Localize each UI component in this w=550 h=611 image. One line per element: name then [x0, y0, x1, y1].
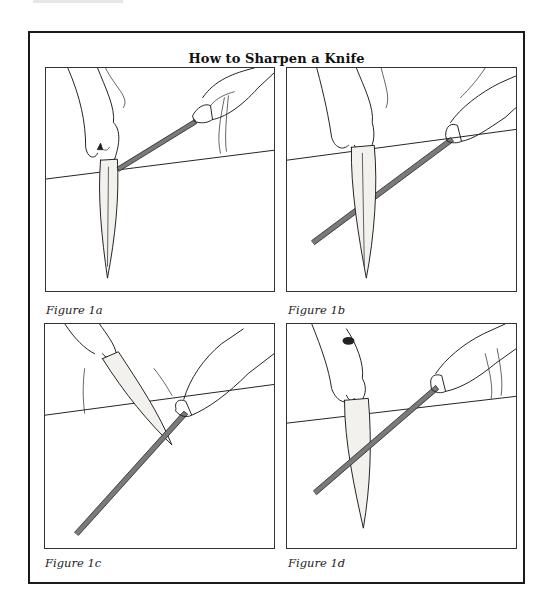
- page-title: How to Sharpen a Knife: [30, 51, 523, 66]
- figure-1b-panel: [286, 67, 517, 292]
- knife-steel-illustration-1b: [287, 68, 516, 291]
- top-edge-strip: [33, 0, 123, 3]
- figure-frame: How to Sharpen a Knife Figure 1: [28, 31, 525, 584]
- figure-1d-caption: Figure 1d: [288, 556, 345, 570]
- figure-1a-panel: [45, 67, 275, 292]
- figure-1c-caption: Figure 1c: [45, 556, 101, 570]
- figure-1c-panel: [44, 323, 275, 549]
- figure-1b-caption: Figure 1b: [288, 303, 345, 317]
- knife-steel-illustration-1a: [46, 68, 274, 291]
- knife-steel-illustration-1d: [287, 324, 516, 548]
- figure-1a-caption: Figure 1a: [46, 303, 103, 317]
- knife-steel-illustration-1c: [45, 324, 274, 548]
- figure-1d-panel: [286, 323, 517, 549]
